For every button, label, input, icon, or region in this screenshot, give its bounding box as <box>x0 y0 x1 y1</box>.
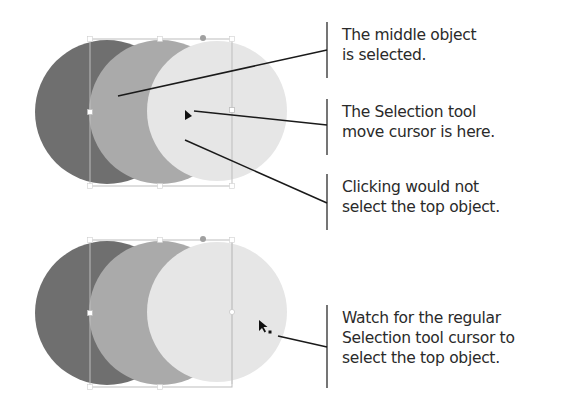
callout-2-line-1: The Selection tool <box>342 102 495 122</box>
callout-4-line-1: Watch for the regular <box>342 308 515 328</box>
callout-1-line-2: is selected. <box>342 45 476 65</box>
bottom-figure <box>35 236 327 390</box>
rotate-handle[interactable] <box>200 236 206 242</box>
bounding-box-handle-top-left[interactable] <box>88 238 93 243</box>
bounding-box-handle-left[interactable] <box>88 311 93 316</box>
bounding-box-handle-right[interactable] <box>230 108 235 113</box>
callout-4: Watch for the regular Selection tool cur… <box>342 308 515 368</box>
callout-2-line-2: move cursor is here. <box>342 122 495 142</box>
top-figure <box>35 35 327 203</box>
callout-1-line-1: The middle object <box>342 25 476 45</box>
callout-4-line-3: select the top object. <box>342 348 515 368</box>
bounding-box-handle-top-right[interactable] <box>230 238 235 243</box>
callout-3-line-1: Clicking would not <box>342 177 500 197</box>
bounding-box-handle-bottom-left[interactable] <box>88 385 93 390</box>
bounding-box-handle-top-left[interactable] <box>88 37 93 42</box>
callout-3: Clicking would not select the top object… <box>342 177 500 217</box>
bounding-box-handle-bottom[interactable] <box>158 184 163 189</box>
selection-cursor-square-icon <box>269 331 272 334</box>
callout-2: The Selection tool move cursor is here. <box>342 102 495 142</box>
bounding-box-handle-left[interactable] <box>88 110 93 115</box>
callout-1: The middle object is selected. <box>342 25 476 65</box>
leader-line-4 <box>278 336 327 347</box>
bounding-box-handle-bottom-left[interactable] <box>88 184 93 189</box>
bounding-box-handle-bottom[interactable] <box>158 385 163 390</box>
bounding-box-handle-top[interactable] <box>158 37 163 42</box>
bounding-box-handle-bottom-right[interactable] <box>230 184 235 189</box>
rotate-handle[interactable] <box>200 35 206 41</box>
callout-3-line-2: select the top object. <box>342 197 500 217</box>
bounding-box-handle-top[interactable] <box>158 238 163 243</box>
bounding-box-handle-top-right[interactable] <box>230 37 235 42</box>
bounding-box-handle-right[interactable] <box>229 309 234 314</box>
callout-4-line-2: Selection tool cursor to <box>342 328 515 348</box>
top-object-circle[interactable] <box>147 242 287 382</box>
top-object-circle[interactable] <box>147 41 287 181</box>
